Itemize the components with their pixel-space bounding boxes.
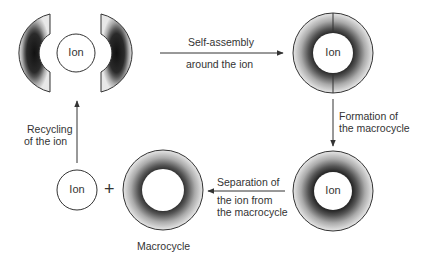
free-macrocycle [123, 150, 203, 230]
left-half-ring [19, 14, 50, 92]
label-formation-2: the macrocycle [339, 122, 410, 135]
ion-label-macrocycle: Ion [313, 184, 353, 196]
label-self-assembly-1: Self-assembly [188, 36, 254, 49]
ion-label-assembled: Ion [313, 46, 353, 58]
ion-label-free: Ion [57, 183, 97, 195]
plus-sign: + [104, 179, 115, 200]
label-recycling-2: of the ion [24, 135, 67, 148]
right-half-ring [101, 14, 132, 92]
macrocycle-caption: Macrocycle [137, 240, 190, 253]
label-self-assembly-2: around the ion [186, 58, 253, 71]
ion-label-split: Ion [56, 46, 96, 58]
label-separation-1: Separation of [217, 176, 279, 189]
label-separation-3: the macrocycle [217, 206, 288, 219]
